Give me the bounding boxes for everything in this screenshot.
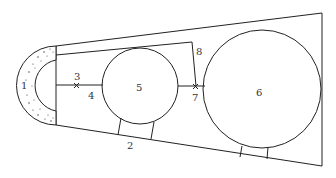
diagram-canvas: 1 2 3 4 5 6 7 8: [0, 0, 336, 178]
label-8: 8: [196, 46, 202, 57]
label-2: 2: [127, 140, 133, 151]
support-6-left: [240, 146, 242, 157]
support-5-right: [151, 122, 154, 139]
label-3: 3: [74, 71, 80, 82]
label-5: 5: [136, 82, 142, 93]
label-7: 7: [192, 92, 198, 103]
label-4: 4: [88, 90, 94, 101]
support-5-left: [118, 118, 121, 135]
label-6: 6: [256, 87, 262, 98]
label-1: 1: [21, 80, 27, 91]
housing-top-edge: [56, 13, 322, 166]
